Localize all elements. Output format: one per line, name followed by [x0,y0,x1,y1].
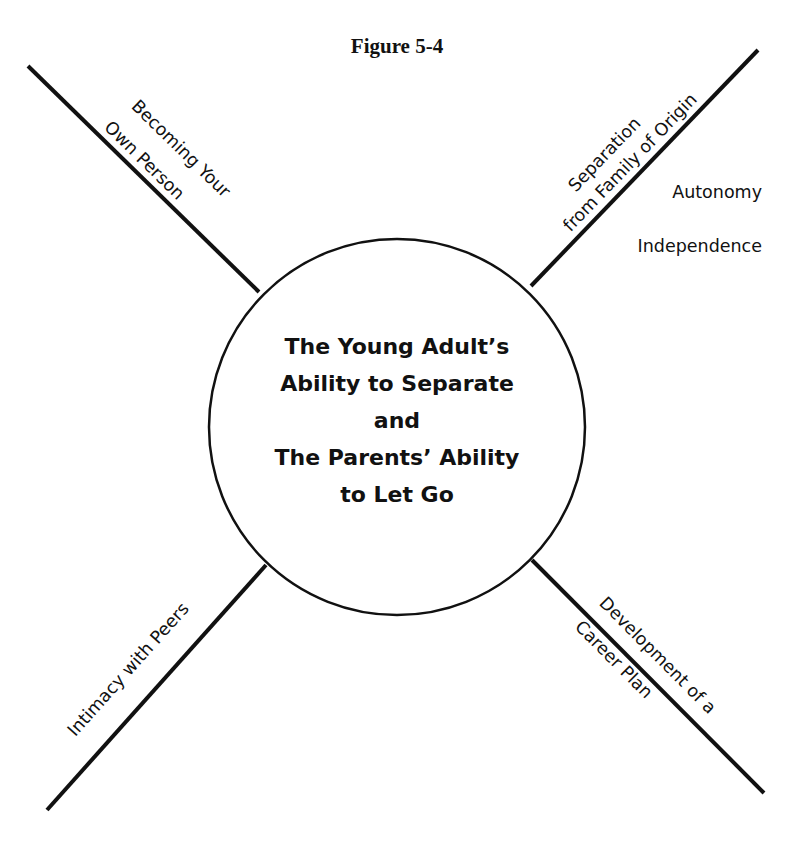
arm-top-right-line2: from Family of Origin [559,89,701,235]
arm-label-bottom-right: Development of a Career Plan [571,592,720,741]
note-autonomy: Autonomy [672,182,762,202]
arm-line-bottom-left [47,565,266,810]
center-line-5: to Let Go [340,482,454,507]
diagram: Figure 5-4 The Young Adult’s Ability to … [0,0,794,846]
center-line-3: and [374,408,420,433]
note-independence: Independence [638,236,762,256]
center-line-1: The Young Adult’s [285,334,510,359]
arm-label-top-right: Separation from Family of Origin [542,73,701,236]
center-line-2: Ability to Separate [280,371,514,396]
figure-title: Figure 5-4 [351,34,444,58]
arm-line-bottom-right [532,560,764,793]
center-line-4: The Parents’ Ability [275,445,520,470]
